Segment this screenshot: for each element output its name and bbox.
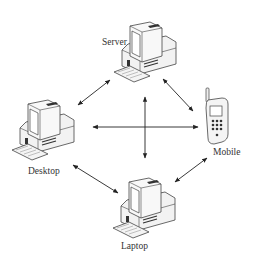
mobile-label: Mobile [213,147,240,157]
network-diagram [0,0,254,266]
desktop-computer-icon [12,100,74,160]
arrow-desktop-laptop [73,165,118,193]
server-computer-icon [114,22,176,82]
laptop-label: Laptop [121,241,148,251]
server-label: Server [102,37,127,47]
laptop-computer-icon [113,178,175,238]
arrow-server-mobile [163,79,193,111]
mobile-phone-icon [206,88,228,144]
arrow-server-desktop [78,80,110,105]
arrow-mobile-laptop [175,158,207,182]
desktop-label: Desktop [28,166,60,176]
